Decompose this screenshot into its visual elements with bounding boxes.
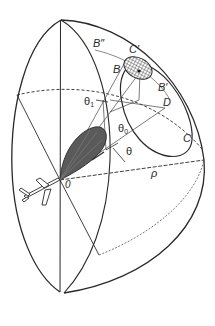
footprint-ellipse-hatched [120,52,156,84]
hemisphere-beam-diagram [0,0,215,326]
label-origin: 0 [65,180,71,190]
label-B: B [113,64,120,75]
footprint-center-dot [137,69,140,72]
label-theta1: θ1 [84,96,94,108]
label-B-double-prime: B″ [93,38,104,49]
label-C-prime: C′ [129,44,139,55]
large-ellipse-C [121,64,193,157]
label-B-prime: B′ [158,82,167,93]
upper-left-diagonal [17,95,60,180]
label-C: C [183,133,191,144]
label-D: D [163,97,171,108]
label-rho: ρ [151,168,157,179]
label-theta0: θ0 [118,123,128,135]
lower-diagonal [60,180,99,255]
vertical-axis [60,20,61,292]
label-theta: θ [126,146,132,157]
aircraft [19,178,60,205]
hemisphere-left-meridian [12,20,61,292]
antenna-main-lobe [60,127,106,180]
